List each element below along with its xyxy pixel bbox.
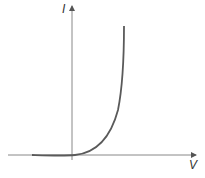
iv-curve-diagram — [0, 0, 205, 178]
iv-curve — [32, 26, 124, 156]
y-axis-label: I — [62, 2, 65, 16]
x-axis-label: V — [189, 158, 197, 172]
